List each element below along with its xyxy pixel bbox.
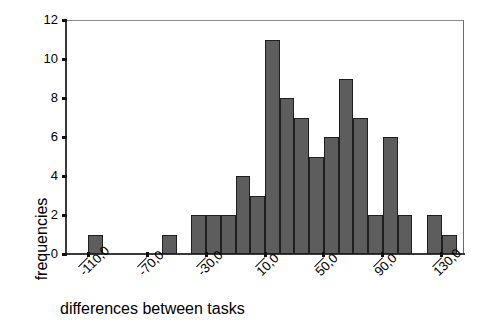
- histogram-bar: [309, 157, 324, 255]
- y-axis-tick: [62, 97, 67, 100]
- histogram-bar: [383, 137, 398, 254]
- y-axis-tick-label: 6: [34, 130, 58, 143]
- histogram-bar: [162, 235, 177, 255]
- histogram-bar: [280, 98, 295, 254]
- x-axis-tick-label: 10,0: [254, 251, 282, 279]
- y-axis-title: frequencies: [33, 159, 51, 319]
- histogram-bar: [339, 79, 354, 255]
- histogram-bar: [353, 118, 368, 255]
- y-axis-tick: [62, 175, 67, 178]
- histogram-bar: [236, 176, 251, 254]
- histogram-bar: [221, 215, 236, 254]
- y-axis-tick-label: 8: [34, 91, 58, 104]
- x-axis-tick-label: 50,0: [313, 251, 341, 279]
- y-axis-tick: [62, 136, 67, 139]
- histogram-chart: 024681012 -110,0-70,0-30,010,050,090,013…: [0, 0, 479, 333]
- y-axis-tick: [62, 253, 67, 256]
- histogram-bar: [398, 215, 413, 254]
- histogram-bar: [294, 118, 309, 255]
- histogram-bar: [191, 215, 206, 254]
- y-axis-tick-label: 10: [34, 52, 58, 65]
- histogram-bar: [368, 215, 383, 254]
- histogram-bar: [265, 40, 280, 255]
- x-axis-tick-label: 90,0: [372, 251, 400, 279]
- y-axis-tick-label: 12: [34, 13, 58, 26]
- x-axis-title: differences between tasks: [60, 300, 245, 318]
- bar-series: [66, 20, 464, 254]
- histogram-bar: [427, 215, 442, 254]
- histogram-bar: [324, 137, 339, 254]
- y-axis-tick: [62, 214, 67, 217]
- y-axis-tick: [62, 58, 67, 61]
- y-axis-title-wrapper: frequencies: [14, 80, 34, 240]
- y-axis-tick: [62, 19, 67, 22]
- histogram-bar: [250, 196, 265, 255]
